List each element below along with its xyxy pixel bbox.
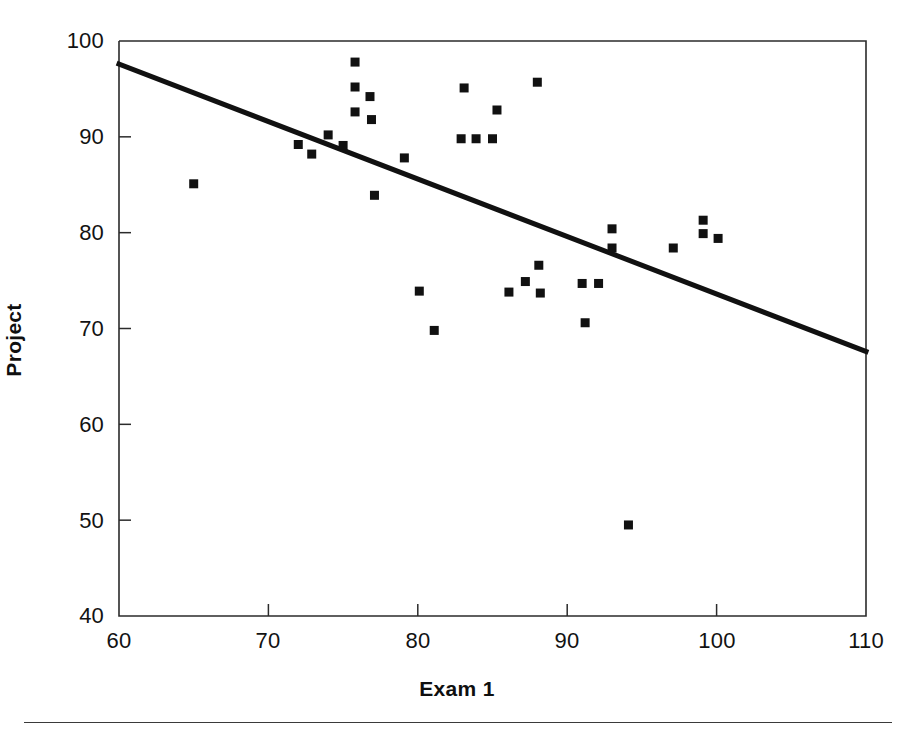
data-point — [669, 244, 678, 253]
x-tick-label-60: 60 — [79, 628, 159, 654]
data-point — [367, 115, 376, 124]
data-point — [339, 141, 348, 150]
y-tick-label-50: 50 — [42, 508, 104, 534]
data-point — [488, 134, 497, 143]
y-tick-label-40: 40 — [42, 603, 104, 629]
data-point — [578, 279, 587, 288]
data-point — [492, 106, 501, 115]
x-tick-label-100: 100 — [677, 628, 757, 654]
data-point — [370, 191, 379, 200]
data-point — [415, 287, 424, 296]
y-tick-label-100: 100 — [42, 28, 104, 54]
y-tick-label-80: 80 — [42, 220, 104, 246]
data-point — [351, 83, 360, 92]
data-point — [521, 277, 530, 286]
plot-canvas — [0, 0, 914, 736]
data-point — [324, 130, 333, 139]
data-point — [714, 234, 723, 243]
data-point — [189, 179, 198, 188]
data-point — [400, 153, 409, 162]
data-point — [307, 150, 316, 159]
axis-ticks — [119, 137, 717, 616]
x-tick-label-70: 70 — [228, 628, 308, 654]
data-point — [699, 216, 708, 225]
data-point — [533, 78, 542, 87]
scatter-plot-figure: 100 90 80 70 60 50 40 60 70 80 90 100 11… — [0, 0, 914, 736]
data-point — [430, 326, 439, 335]
data-point — [581, 318, 590, 327]
y-tick-label-90: 90 — [42, 124, 104, 150]
y-tick-label-60: 60 — [42, 412, 104, 438]
data-point — [699, 229, 708, 238]
y-tick-label-70: 70 — [42, 316, 104, 342]
data-point — [351, 58, 360, 67]
data-point — [294, 140, 303, 149]
data-point — [536, 289, 545, 298]
data-point — [460, 83, 469, 92]
data-point — [624, 520, 633, 529]
data-point — [457, 134, 466, 143]
x-axis-title: Exam 1 — [0, 677, 914, 701]
data-point — [351, 107, 360, 116]
x-tick-label-80: 80 — [378, 628, 458, 654]
data-point — [472, 134, 481, 143]
footer-divider — [24, 722, 892, 723]
x-tick-label-110: 110 — [826, 628, 906, 654]
data-point — [504, 288, 513, 297]
data-point — [594, 279, 603, 288]
x-tick-label-90: 90 — [527, 628, 607, 654]
data-point-series — [189, 58, 722, 530]
y-axis-title: Project — [2, 303, 26, 376]
data-point — [608, 244, 617, 253]
data-point — [608, 224, 617, 233]
data-point — [365, 92, 374, 101]
plot-frame — [119, 41, 866, 616]
data-point — [534, 261, 543, 270]
